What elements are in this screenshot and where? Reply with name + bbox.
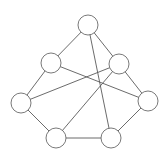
node-upper-left [41, 53, 61, 73]
edges-layer [21, 25, 148, 138]
node-upper-right [109, 54, 129, 74]
node-right [138, 91, 158, 111]
nodes-layer [11, 15, 158, 148]
node-bottom-left [46, 128, 66, 148]
edge-upper-right-bottom-left [56, 64, 119, 138]
node-bottom-right [101, 128, 121, 148]
node-left [11, 93, 31, 113]
node-top [78, 15, 98, 35]
edge-top-bottom-right [88, 25, 111, 138]
graph-diagram [0, 0, 167, 160]
